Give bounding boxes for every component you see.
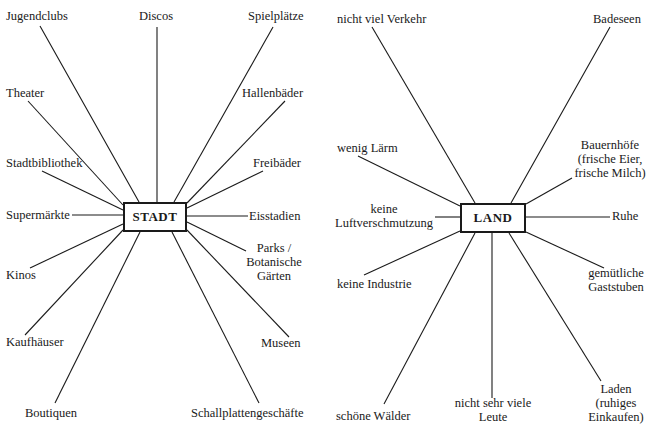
label-keine-industrie: keine Industrie [337,277,412,291]
label-jugendclubs: Jugendclubs [6,9,68,23]
label-gaststuben-line2: Gaststuben [583,280,649,294]
label-discos: Discos [139,9,173,23]
label-schallplattengeschaefte: Schallplattengeschäfte [191,406,303,420]
label-keine-luftverschmutzung: keine Luftverschmutzung [334,202,434,230]
label-kaufhaeuser: Kaufhäuser [6,335,64,349]
land-center-label: LAND [474,210,513,226]
label-parks-line3: Gärten [244,269,304,283]
label-stadtbibliothek: Stadtbibliothek [6,156,82,170]
label-nicht-viel-verkehr: nicht viel Verkehr [337,12,426,26]
label-ruhe: Ruhe [612,209,638,223]
label-spielplaetze: Spielplätze [248,9,304,23]
label-laden-ruhiges-einkaufen: Laden (ruhiges Einkaufen) [583,382,649,424]
label-parks-line1: Parks / [244,241,304,255]
label-gemuetliche-gaststuben: gemütliche Gaststuben [583,266,649,294]
label-kinos: Kinos [6,268,36,282]
label-schoene-waelder: schöne Wälder [336,409,410,423]
label-museen: Museen [261,336,301,350]
label-hallenbaeder: Hallenbäder [242,86,303,100]
label-supermaerkte: Supermärkte [6,208,70,222]
label-parks-line2: Botanische [244,255,304,269]
label-badeseen: Badeseen [593,12,641,26]
label-bauernhoefe-line2: (frische Eier, [571,152,649,166]
label-leute-line2: Leute [445,410,541,424]
label-nicht-sehr-viele-leute: nicht sehr viele Leute [445,396,541,424]
label-laden-line2: (ruhiges [583,396,649,410]
label-bauernhoefe-line3: frische Milch) [571,166,649,180]
label-gaststuben-line1: gemütliche [583,266,649,280]
label-leute-line1: nicht sehr viele [445,396,541,410]
label-laden-line1: Laden [583,382,649,396]
connector-lines [0,0,649,435]
label-freibaeder: Freibäder [253,156,301,170]
label-parks-botanische-gaerten: Parks / Botanische Gärten [244,241,304,283]
land-center-box: LAND [460,203,526,233]
stadt-center-box: STADT [123,202,187,232]
label-laden-line3: Einkaufen) [583,410,649,424]
label-bauernhoefe: Bauernhöfe (frische Eier, frische Milch) [571,138,649,180]
label-wenig-laerm: wenig Lärm [337,141,398,155]
label-boutiquen: Boutiquen [25,406,77,420]
label-theater: Theater [6,86,44,100]
label-bauernhoefe-line1: Bauernhöfe [571,138,649,152]
label-luft-line2: Luftverschmutzung [334,216,434,230]
label-eisstadien: Eisstadien [249,209,300,223]
stadt-center-label: STADT [133,209,178,225]
label-luft-line1: keine [334,202,434,216]
